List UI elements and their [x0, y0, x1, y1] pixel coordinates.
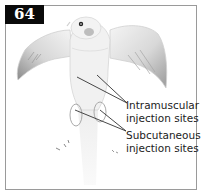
subcutaneous-label: Subcutaneous injection sites [126, 129, 201, 155]
intramuscular-label: Intramuscular injection sites [126, 99, 199, 125]
subcutaneous-label-line1: Subcutaneous [126, 129, 201, 142]
right-foot [112, 150, 118, 153]
head [71, 17, 101, 39]
subcutaneous-label-line2: injection sites [126, 142, 201, 155]
parrot-illustration [0, 0, 208, 192]
left-foot [56, 140, 69, 150]
cheek-patch [84, 28, 94, 36]
subcutaneous-leader-2 [100, 110, 126, 131]
intramuscular-label-line2: injection sites [126, 112, 199, 125]
figure-number-badge: 64 [5, 5, 44, 24]
left-wing [17, 30, 72, 80]
intramuscular-label-line1: Intramuscular [126, 99, 199, 112]
